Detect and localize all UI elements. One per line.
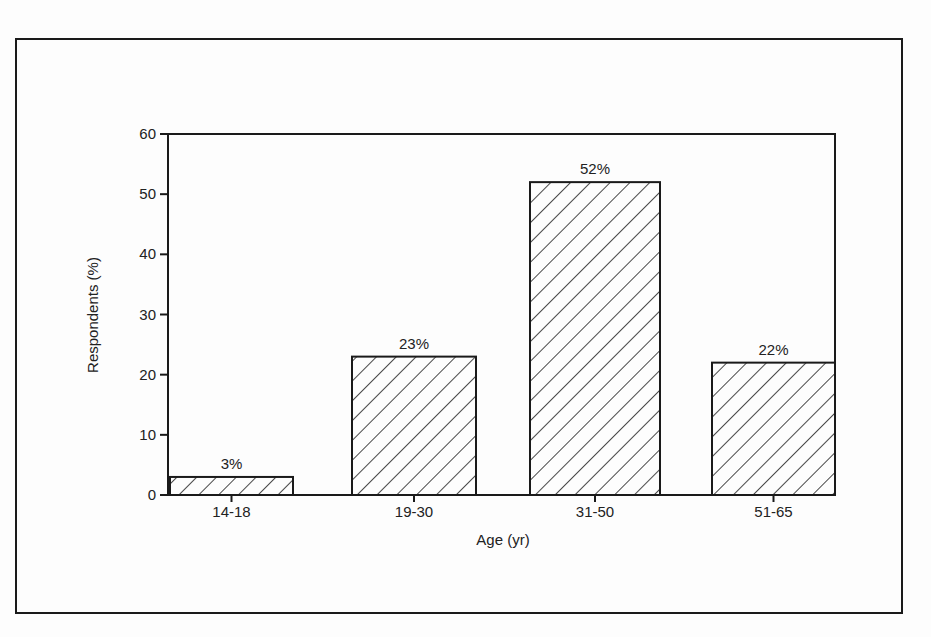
- bar-rect: [712, 363, 835, 495]
- bar-value-label: 52%: [580, 160, 610, 177]
- bar-value-label: 22%: [758, 341, 788, 358]
- x-axis-title: Age (yr): [476, 531, 529, 548]
- y-tick-label: 0: [148, 486, 156, 503]
- y-axis: 0102030405060: [139, 125, 168, 503]
- bar-rect: [170, 477, 293, 495]
- y-tick-label: 40: [139, 245, 156, 262]
- bar-51-65: 22%: [712, 341, 835, 495]
- bar-chart: 0102030405060 3%23%52%22% 14-1819-3031-5…: [0, 0, 931, 637]
- bar-value-label: 3%: [221, 455, 243, 472]
- y-tick-label: 30: [139, 306, 156, 323]
- y-tick-label: 10: [139, 426, 156, 443]
- bar-14-18: 3%: [170, 455, 293, 495]
- bar-rect: [530, 182, 660, 495]
- bar-19-30: 23%: [352, 335, 476, 495]
- bar-rect: [352, 357, 476, 495]
- y-tick-label: 60: [139, 125, 156, 142]
- x-tick-label: 14-18: [212, 503, 250, 520]
- x-tick-label: 51-65: [754, 503, 792, 520]
- bars: 3%23%52%22%: [170, 160, 835, 495]
- x-axis: 14-1819-3031-5051-65: [212, 495, 792, 520]
- y-axis-title: Respondents (%): [84, 257, 101, 373]
- bar-31-50: 52%: [530, 160, 660, 495]
- y-tick-label: 20: [139, 366, 156, 383]
- x-tick-label: 31-50: [576, 503, 614, 520]
- x-tick-label: 19-30: [395, 503, 433, 520]
- bar-value-label: 23%: [399, 335, 429, 352]
- y-tick-label: 50: [139, 185, 156, 202]
